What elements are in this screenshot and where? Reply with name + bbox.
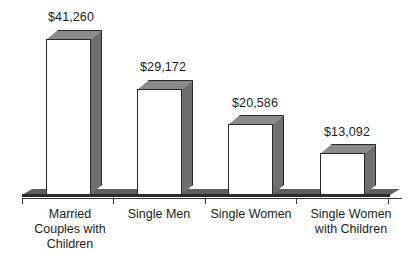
axis-tick-2: [205, 198, 206, 204]
axis-rule: [22, 198, 402, 199]
value-label-2: $20,586: [204, 96, 306, 110]
bar-group-0: [46, 30, 102, 195]
bar-front-face-0[interactable]: [46, 39, 91, 195]
axis-tick-4: [388, 198, 389, 204]
axis-tick-3: [296, 198, 297, 204]
bar-group-3: [320, 144, 376, 195]
bar-side-face-2: [272, 115, 284, 195]
bar-side-face-1: [181, 80, 193, 195]
bar-group-2: [228, 115, 284, 195]
bar-chart: $41,260 $29,172 $20,586 $13,092 Married …: [0, 0, 415, 268]
value-label-3: $13,092: [296, 125, 398, 139]
category-label-1: Single Men: [113, 207, 205, 222]
bar-side-face-0: [90, 30, 102, 195]
axis-tick-1: [113, 198, 114, 204]
axis-tick-0: [22, 198, 23, 204]
value-label-1: $29,172: [112, 60, 214, 74]
category-label-0: Married Couples with Children: [16, 207, 124, 252]
category-label-2: Single Women: [201, 207, 301, 222]
value-label-0: $41,260: [20, 10, 122, 24]
bar-front-face-3[interactable]: [320, 153, 365, 195]
bar-front-face-2[interactable]: [228, 124, 273, 195]
bar-group-1: [137, 80, 193, 195]
category-label-3: Single Women with Children: [296, 207, 406, 237]
bar-front-face-1[interactable]: [137, 89, 182, 195]
